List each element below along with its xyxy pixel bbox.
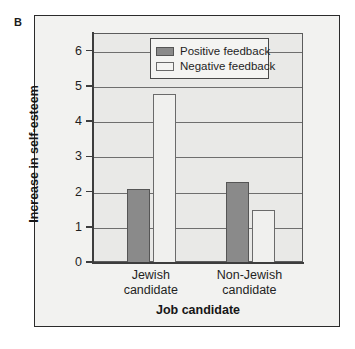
y-tick-label-group: 0123456 bbox=[56, 0, 82, 349]
y-tick-mark-5 bbox=[86, 85, 93, 87]
gridline-y-3 bbox=[94, 157, 302, 158]
y-tick-label-4: 4 bbox=[60, 114, 82, 128]
bar-positive-group-1 bbox=[127, 189, 150, 264]
y-tick-mark-1 bbox=[86, 226, 93, 228]
y-tick-mark-3 bbox=[86, 156, 93, 158]
x-axis-line bbox=[92, 262, 304, 264]
y-tick-mark-0 bbox=[86, 261, 93, 263]
y-tick-label-6: 6 bbox=[60, 44, 82, 58]
legend-item-positive: Positive feedback bbox=[156, 44, 263, 58]
gridline-y-4 bbox=[94, 122, 302, 123]
y-tick-label-0: 0 bbox=[60, 255, 82, 269]
x-axis-label-line: candidate bbox=[96, 283, 206, 298]
x-axis-label-line: Jewish bbox=[96, 268, 206, 283]
y-tick-mark-2 bbox=[86, 191, 93, 193]
y-tick-mark-4 bbox=[86, 120, 93, 122]
x-axis-label-line: candidate bbox=[194, 283, 304, 298]
panel-label: B bbox=[14, 16, 22, 28]
legend-swatch-positive-icon bbox=[156, 47, 174, 56]
y-axis-line bbox=[92, 32, 94, 263]
figure-panel-b: B 0123456 Increase in self-esteem Job ca… bbox=[0, 0, 355, 349]
chart-legend: Positive feedback Negative feedback bbox=[150, 38, 269, 79]
bar-negative-group-2 bbox=[252, 210, 275, 264]
y-axis-title: Increase in self-esteem bbox=[27, 54, 41, 254]
gridline-y-5 bbox=[94, 87, 302, 88]
y-tick-label-2: 2 bbox=[60, 185, 82, 199]
gridline-y-2 bbox=[94, 193, 302, 194]
bar-positive-group-2 bbox=[226, 182, 249, 264]
legend-item-negative: Negative feedback bbox=[156, 59, 263, 73]
y-tick-label-5: 5 bbox=[60, 79, 82, 93]
x-axis-title: Job candidate bbox=[93, 303, 303, 317]
y-tick-label-1: 1 bbox=[60, 220, 82, 234]
y-tick-mark-6 bbox=[86, 50, 93, 52]
bar-negative-group-1 bbox=[153, 94, 176, 264]
legend-label-positive: Positive feedback bbox=[180, 45, 270, 57]
legend-label-negative: Negative feedback bbox=[180, 60, 275, 72]
x-axis-label-line: Non-Jewish bbox=[194, 268, 304, 283]
legend-swatch-negative-icon bbox=[156, 62, 174, 71]
x-axis-label-group-1: Jewishcandidate bbox=[96, 268, 206, 297]
x-axis-label-group-2: Non-Jewishcandidate bbox=[194, 268, 304, 297]
y-tick-label-3: 3 bbox=[60, 149, 82, 163]
